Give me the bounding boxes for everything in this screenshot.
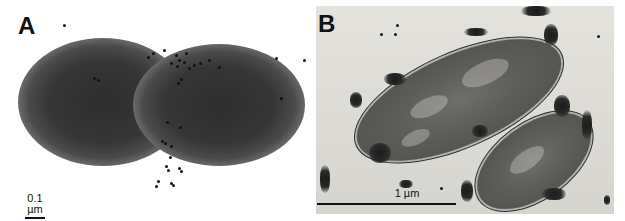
gold-particle bbox=[175, 54, 178, 57]
scale-bar-a: 0.1 µm bbox=[20, 193, 50, 219]
gold-particle bbox=[180, 78, 183, 81]
gold-cluster bbox=[384, 73, 406, 85]
gold-particle bbox=[180, 170, 183, 173]
gold-particle bbox=[199, 62, 202, 65]
gold-particle bbox=[280, 97, 283, 100]
cell-lobe-right bbox=[133, 44, 305, 166]
cytoplasm-light-region bbox=[506, 141, 549, 179]
gold-particle bbox=[170, 145, 173, 148]
panel-a: A bbox=[0, 0, 310, 221]
gold-particle bbox=[208, 59, 211, 62]
gold-particle bbox=[170, 62, 173, 65]
gold-particle bbox=[147, 56, 150, 59]
gold-cluster bbox=[369, 143, 391, 163]
gold-particle bbox=[193, 64, 196, 67]
panel-a-label: A bbox=[18, 14, 35, 38]
gold-cluster bbox=[582, 110, 592, 140]
gold-particle bbox=[178, 59, 181, 62]
gold-particle bbox=[166, 121, 169, 124]
gold-particle bbox=[152, 52, 155, 55]
gold-particle bbox=[303, 59, 306, 62]
cytoplasm-light-region bbox=[458, 53, 513, 93]
scale-bar-a-label: 0.1 µm bbox=[20, 193, 50, 215]
cytoplasm-light-region bbox=[399, 125, 432, 150]
scale-bar-b: 1 µm bbox=[317, 188, 457, 205]
gold-cluster bbox=[554, 95, 570, 117]
gold-particle bbox=[179, 126, 182, 129]
scale-bar-b-line bbox=[317, 203, 456, 205]
gold-particle bbox=[188, 67, 191, 70]
gold-particle bbox=[185, 52, 188, 55]
gold-cluster bbox=[472, 125, 488, 137]
gold-particle bbox=[275, 57, 278, 60]
gold-cluster bbox=[521, 6, 551, 16]
gold-particle bbox=[165, 165, 168, 168]
gold-particle bbox=[183, 61, 186, 64]
gold-particle bbox=[157, 180, 160, 183]
gold-particle bbox=[63, 24, 66, 27]
scale-bar-a-line bbox=[25, 217, 45, 219]
scale-bar-b-label: 1 µm bbox=[317, 188, 457, 199]
gold-cluster bbox=[461, 180, 473, 202]
gold-particle bbox=[93, 77, 96, 80]
gold-particle bbox=[597, 35, 600, 38]
gold-particle bbox=[218, 66, 221, 69]
micrograph-figure: A bbox=[0, 0, 625, 221]
gold-particle bbox=[169, 156, 172, 159]
panel-b: 1 µm B bbox=[314, 0, 625, 221]
gold-cluster bbox=[544, 24, 558, 46]
gold-particle bbox=[177, 82, 180, 85]
gold-particle bbox=[167, 169, 170, 172]
gold-particle bbox=[176, 65, 179, 68]
gold-cluster bbox=[604, 195, 610, 205]
gold-particle bbox=[396, 24, 399, 27]
gold-particle bbox=[380, 33, 383, 36]
panel-b-label: B bbox=[318, 12, 335, 36]
gold-cluster bbox=[542, 188, 566, 200]
gold-cluster bbox=[350, 92, 362, 108]
cytoplasm-light-region bbox=[407, 90, 451, 123]
gold-particle bbox=[155, 185, 158, 188]
gold-particle bbox=[163, 49, 166, 52]
gold-particle bbox=[394, 33, 397, 36]
gold-particle bbox=[164, 142, 167, 145]
gold-particle bbox=[97, 79, 100, 82]
gold-cluster bbox=[464, 28, 488, 36]
gold-particle bbox=[172, 184, 175, 187]
